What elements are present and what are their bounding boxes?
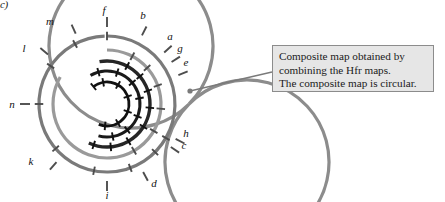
marker-tick bbox=[112, 132, 113, 140]
ring-3 bbox=[53, 50, 161, 158]
marker-tick bbox=[143, 172, 148, 181]
marker-tick bbox=[72, 25, 76, 34]
ring-group-ring-2 bbox=[35, 32, 175, 175]
gene-label-l: l bbox=[22, 42, 25, 54]
marker-tick bbox=[157, 108, 165, 109]
gene-label-a: a bbox=[167, 30, 173, 42]
callout-textbox: Composite map obtained by combining the … bbox=[272, 45, 434, 92]
gene-label-d: d bbox=[151, 177, 157, 189]
callout-line-2: combining the Hfr maps. bbox=[279, 64, 428, 78]
marker-tick bbox=[110, 143, 111, 151]
ring-group-ring-5 bbox=[91, 68, 144, 141]
gene-label-f: f bbox=[102, 4, 107, 16]
figure-root: c) fbagehcdiknlm Composite map obtained … bbox=[0, 0, 445, 202]
marker-tick bbox=[97, 68, 99, 76]
marker-tick bbox=[116, 69, 119, 77]
gene-label-c: c bbox=[182, 139, 187, 151]
gene-label-n: n bbox=[9, 98, 15, 110]
marker-tick bbox=[172, 57, 180, 62]
gene-label-i: i bbox=[105, 189, 108, 201]
gene-label-g: g bbox=[177, 42, 183, 54]
marker-tick bbox=[142, 26, 147, 35]
gene-label-m: m bbox=[46, 15, 54, 27]
marker-tick bbox=[102, 78, 103, 86]
gene-label-b: b bbox=[140, 9, 146, 21]
marker-tick bbox=[50, 162, 57, 170]
marker-tick bbox=[40, 48, 48, 54]
ring-group-ring-3 bbox=[53, 50, 165, 158]
callout-line-1: Composite map obtained by bbox=[279, 50, 428, 64]
marker-tick bbox=[164, 46, 171, 53]
marker-tick bbox=[178, 71, 187, 75]
marker-tick bbox=[144, 89, 152, 92]
callout-leader-dot bbox=[187, 88, 192, 93]
marker-tick bbox=[93, 167, 95, 175]
ring-6 bbox=[93, 82, 129, 126]
gene-label-k: k bbox=[29, 155, 35, 167]
gene-label-h: h bbox=[183, 127, 189, 139]
marker-tick bbox=[105, 122, 106, 130]
circular-genetic-map: fbagehcdiknlm bbox=[0, 0, 445, 202]
marker-tick bbox=[92, 141, 95, 149]
gene-label-e: e bbox=[184, 56, 189, 68]
marker-tick bbox=[171, 147, 179, 153]
marker-tick bbox=[146, 107, 154, 108]
callout-line-3: The composite map is circular. bbox=[279, 77, 428, 91]
marker-tick bbox=[135, 98, 143, 99]
